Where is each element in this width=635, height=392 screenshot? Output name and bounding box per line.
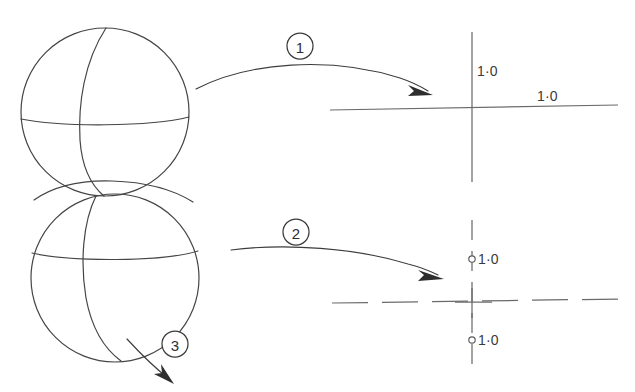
lower-sphere-meridian [83,196,121,361]
upper-sphere-equator [21,117,189,125]
diagram-1-x-label: 1·0 [537,88,558,104]
arrow-1-path [196,65,428,91]
arrow-2-path [231,247,438,275]
technical-figure: 1 2 3 1·0 1·0 [0,0,635,392]
lower-sphere-rim [34,181,193,202]
arrow-1 [196,65,433,96]
callout-2[interactable]: 2 [283,219,309,245]
diagram-1-x-axis [330,105,618,110]
dashed-axes-diagram: 1·0 1·0 [332,220,620,368]
callout-1-label: 1 [296,39,304,56]
callout-3[interactable]: 3 [162,331,188,357]
arrow-3-head [154,364,174,384]
diagram-2-y-label-positive: 1·0 [478,251,499,267]
callout-2-label: 2 [292,225,300,242]
solid-axes-diagram: 1·0 1·0 [330,32,618,182]
figure-canvas: 1 2 3 1·0 1·0 [0,0,635,392]
diagram-1-y-label: 1·0 [477,63,498,79]
callout-1[interactable]: 1 [287,33,313,59]
upper-sphere-outline [21,28,189,196]
lower-sphere-equator [32,251,198,260]
arrow-2 [231,247,444,281]
diagram-2-y-label-negative: 1·0 [478,332,499,348]
upper-sphere [21,28,189,196]
diagram-2-marker-negative [469,337,475,343]
upper-sphere-meridian [80,28,106,196]
callout-3-label: 3 [171,337,179,354]
diagram-2-marker-positive [469,256,475,262]
